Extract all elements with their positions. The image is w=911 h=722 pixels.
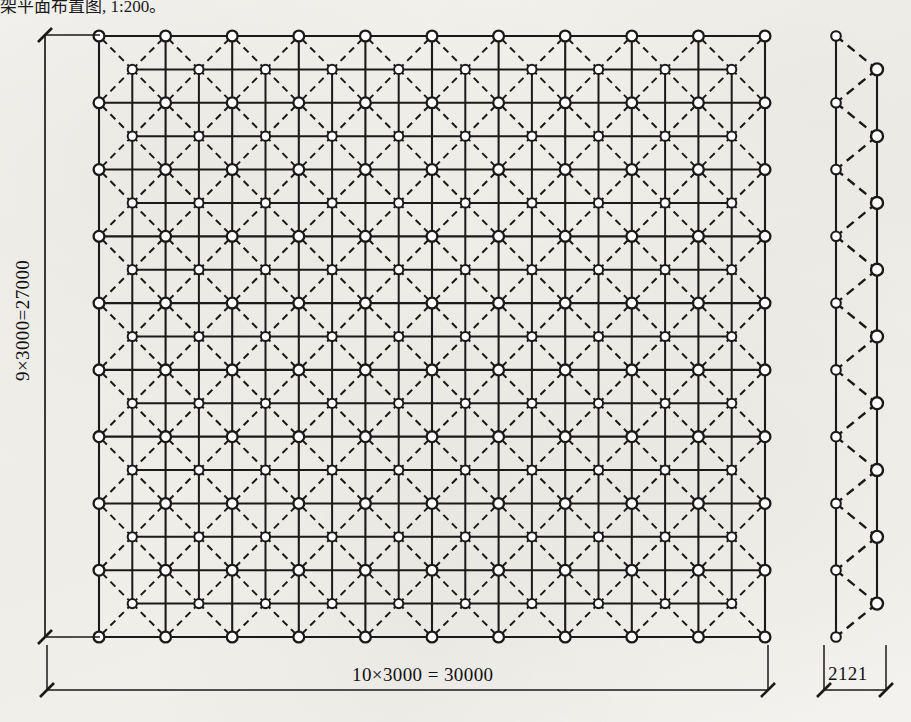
top-layer-node <box>626 31 637 42</box>
top-layer-node <box>293 31 304 42</box>
top-layer-node <box>560 298 571 309</box>
top-layer-node <box>293 431 304 442</box>
top-layer-node <box>293 97 304 108</box>
top-layer-node <box>227 97 238 108</box>
top-layer-node <box>626 632 637 643</box>
elevation-right-chord-node <box>871 331 883 343</box>
top-layer-node <box>160 565 171 576</box>
bottom-layer-node <box>128 332 137 341</box>
bottom-layer-node <box>727 65 736 74</box>
top-layer-node <box>94 431 105 442</box>
top-layer-node <box>560 97 571 108</box>
top-layer-node <box>493 31 504 42</box>
top-layer-node <box>360 164 371 175</box>
bottom-layer-node <box>128 265 137 274</box>
top-layer-node <box>94 298 105 309</box>
top-layer-node <box>760 431 771 442</box>
bottom-layer-node <box>194 132 203 141</box>
top-layer-node <box>760 97 771 108</box>
top-layer-node <box>560 31 571 42</box>
top-layer-node <box>493 632 504 643</box>
top-layer-node <box>693 498 704 509</box>
top-layer-node <box>493 498 504 509</box>
top-layer-node <box>626 97 637 108</box>
bottom-layer-node <box>661 599 670 608</box>
top-layer-node <box>760 164 771 175</box>
bottom-layer-node <box>594 465 603 474</box>
top-layer-node <box>293 498 304 509</box>
top-layer-node <box>94 31 105 42</box>
top-layer-node <box>360 364 371 375</box>
bottom-layer-node <box>394 599 403 608</box>
bottom-layer-node <box>261 532 270 541</box>
top-layer-node <box>626 231 637 242</box>
bottom-layer-node <box>328 198 337 207</box>
top-layer-node <box>160 632 171 643</box>
bottom-layer-node <box>661 132 670 141</box>
bottom-layer-node <box>328 532 337 541</box>
bottom-layer-node <box>461 198 470 207</box>
top-layer-node <box>227 632 238 643</box>
top-layer-node <box>293 364 304 375</box>
top-layer-node <box>626 164 637 175</box>
top-layer-node <box>360 431 371 442</box>
bottom-layer-node <box>328 599 337 608</box>
top-layer-node <box>227 498 238 509</box>
elevation-left-chord-node <box>831 165 841 175</box>
bottom-layer-node <box>527 399 536 408</box>
elevation-right-chord-node <box>871 397 883 409</box>
bottom-layer-node <box>594 399 603 408</box>
top-layer-node <box>560 498 571 509</box>
dimension-label-bottom: 10×3000 = 30000 <box>352 664 493 686</box>
bottom-layer-node <box>328 332 337 341</box>
bottom-layer-node <box>261 465 270 474</box>
bottom-layer-node <box>461 599 470 608</box>
top-layer-node <box>760 298 771 309</box>
bottom-layer-node <box>261 132 270 141</box>
bottom-layer-node <box>461 399 470 408</box>
top-layer-node <box>560 364 571 375</box>
bottom-layer-node <box>727 399 736 408</box>
top-layer-node <box>160 97 171 108</box>
plan-view <box>94 31 771 643</box>
bottom-layer-node <box>194 332 203 341</box>
top-layer-node <box>427 31 438 42</box>
top-layer-node <box>427 364 438 375</box>
top-layer-node <box>160 364 171 375</box>
top-layer-node <box>760 31 771 42</box>
top-layer-node <box>626 498 637 509</box>
bottom-layer-node <box>128 599 137 608</box>
bottom-layer-node <box>328 65 337 74</box>
bottom-layer-node <box>128 465 137 474</box>
bottom-layer-node <box>261 332 270 341</box>
bottom-layer-node <box>461 532 470 541</box>
bottom-layer-node <box>194 532 203 541</box>
top-layer-node <box>227 565 238 576</box>
bottom-layer-node <box>194 198 203 207</box>
top-layer-node <box>94 97 105 108</box>
bottom-layer-node <box>661 332 670 341</box>
bottom-layer-node <box>328 399 337 408</box>
elevation-left-chord-node <box>831 499 841 509</box>
bottom-layer-node <box>661 399 670 408</box>
elevation-right-chord-node <box>871 598 883 610</box>
elevation-left-chord-node <box>831 298 841 308</box>
top-layer-node <box>427 498 438 509</box>
top-layer-node <box>427 565 438 576</box>
bottom-layer-node <box>661 265 670 274</box>
top-layer-node <box>693 565 704 576</box>
top-layer-node <box>427 431 438 442</box>
top-layer-node <box>227 298 238 309</box>
bottom-layer-node <box>727 532 736 541</box>
bottom-layer-node <box>261 599 270 608</box>
elevation-left-chord-node <box>831 31 841 41</box>
top-layer-node <box>693 31 704 42</box>
bottom-layer-node <box>194 599 203 608</box>
top-layer-node <box>160 298 171 309</box>
bottom-layer-node <box>661 532 670 541</box>
top-layer-node <box>493 231 504 242</box>
top-layer-node <box>94 498 105 509</box>
bottom-layer-node <box>661 198 670 207</box>
top-layer-node <box>360 97 371 108</box>
top-layer-node <box>626 298 637 309</box>
